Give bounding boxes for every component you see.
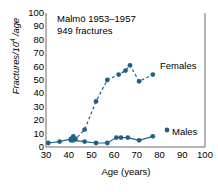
data-point-males — [46, 141, 51, 146]
data-point-males — [57, 139, 62, 144]
plot-area — [0, 0, 218, 192]
axis-spine-left-bottom — [46, 13, 205, 147]
data-point-males — [137, 138, 142, 143]
data-point-males — [125, 135, 130, 140]
data-point-females — [128, 63, 133, 68]
series-marker-males-legend — [165, 128, 170, 133]
data-point-males — [82, 139, 87, 144]
data-point-females — [150, 72, 155, 77]
data-point-males — [150, 134, 155, 139]
data-point-males — [94, 141, 99, 146]
data-point-females — [116, 72, 121, 77]
chart-figure: Fractures/104 /age 010203040506070809010… — [0, 0, 218, 192]
data-point-females — [137, 79, 142, 84]
data-point-males — [114, 135, 119, 140]
data-point-males — [105, 141, 110, 146]
data-point-males — [71, 138, 76, 143]
data-point-females — [105, 78, 110, 83]
data-point-females — [82, 127, 87, 132]
data-point-females — [123, 68, 128, 73]
data-point-males — [119, 135, 124, 140]
data-point-females — [94, 99, 99, 104]
